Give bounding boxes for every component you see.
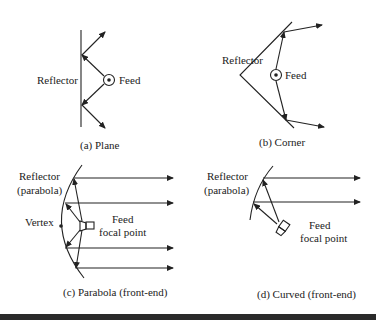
caption-corner: (b) Corner — [259, 136, 305, 149]
vertex-point — [59, 224, 63, 228]
feed-icon — [271, 70, 282, 81]
reflector-label: Reflector — [222, 54, 263, 66]
incident-ray-top — [82, 55, 104, 76]
incident-ray-1 — [74, 179, 82, 221]
reflector-label-line1: Reflector — [207, 170, 248, 182]
incident-ray-bottom — [82, 84, 104, 105]
caption-curved: (d) Curved (front-end) — [257, 288, 356, 301]
bottom-rule — [0, 314, 376, 320]
feed-label-line1: Feed — [112, 213, 134, 225]
reflected-ray-top — [284, 25, 322, 32]
curved-reflector — [250, 166, 273, 220]
reflected-ray-bottom — [82, 105, 105, 128]
reflected-ray-top — [82, 32, 105, 55]
feed-horn-icon — [80, 221, 94, 231]
reflector-types-diagram: Reflector Feed (a) Plane Reflector Feed … — [0, 0, 376, 320]
feed-label-line1: Feed — [309, 219, 331, 231]
reflector-label: Reflector — [37, 74, 78, 86]
feed-horn-icon — [275, 220, 290, 236]
feed-label-line2: focal point — [300, 232, 347, 244]
incident-ray-bottom — [276, 81, 286, 120]
caption-plane: (a) Plane — [80, 139, 120, 152]
feed-icon — [104, 75, 115, 86]
feed-label: Feed — [285, 69, 307, 81]
incident-ray-3 — [66, 230, 80, 247]
incident-ray-2 — [66, 204, 80, 222]
incident-ray-4 — [76, 230, 82, 268]
feed-label: Feed — [119, 74, 141, 86]
feed-label-line2: focal point — [99, 226, 146, 238]
panel-curved: Reflector (parabola) Feed focal point (d… — [204, 166, 360, 301]
panel-corner: Reflector Feed (b) Corner — [222, 22, 324, 149]
reflector-label-line1: Reflector — [19, 170, 60, 182]
vertex-label: Vertex — [25, 216, 54, 228]
caption-parabola: (c) Parabola (front-end) — [63, 286, 168, 299]
panel-parabola: Reflector (parabola) Vertex Feed focal p… — [17, 165, 173, 299]
reflector-label-line2: (parabola) — [17, 184, 63, 197]
reflector-label-line2: (parabola) — [204, 184, 250, 197]
incident-ray-1 — [263, 180, 279, 222]
panel-plane: Reflector Feed (a) Plane — [37, 30, 141, 152]
